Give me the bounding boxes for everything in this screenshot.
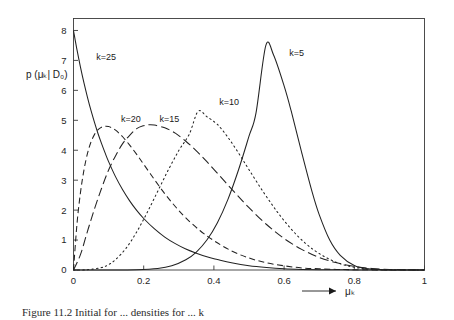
- y-axis-label: p (μₖ| D₀): [26, 69, 68, 80]
- curve-label-k-25: k=25: [96, 52, 116, 62]
- y-tick-label: 4: [61, 145, 66, 156]
- x-axis-arrow-head: [329, 288, 336, 295]
- x-tick-label: 0.2: [137, 275, 150, 286]
- y-tick-label: 6: [61, 85, 66, 96]
- x-tick-label: 1: [422, 275, 427, 286]
- curve-label-k-5: k=5: [289, 48, 304, 58]
- figure-container: p (μₖ| D₀) 00.20.40.60.81 012345678 k=25…: [0, 0, 454, 320]
- plot-frame: [74, 19, 425, 271]
- x-tick-label: 0.6: [277, 275, 290, 286]
- y-tick-labels: 012345678: [61, 25, 66, 276]
- y-tick-label: 5: [61, 115, 66, 126]
- curve-k-25: [74, 30, 425, 270]
- y-tick-label: 2: [61, 205, 66, 216]
- beta-density-plot: p (μₖ| D₀) 00.20.40.60.81 012345678 k=25…: [0, 0, 454, 302]
- axis-ticks: [74, 30, 425, 270]
- curve-label-k-20: k=20: [121, 114, 141, 124]
- figure-caption: Figure 11.2 Initial for ... densities fo…: [22, 306, 442, 318]
- x-axis-label-text: μₖ: [345, 286, 355, 297]
- y-tick-label: 1: [61, 234, 66, 245]
- y-tick-label: 0: [61, 264, 66, 275]
- curve-k-5: [74, 42, 425, 270]
- x-tick-label: 0: [71, 275, 76, 286]
- density-curves: [74, 30, 425, 270]
- curve-label-k-10: k=10: [219, 97, 239, 107]
- x-tick-labels: 00.20.40.60.81: [71, 275, 427, 286]
- y-tick-label: 8: [61, 25, 66, 36]
- x-axis-label: μₖ: [302, 286, 355, 297]
- y-tick-label: 3: [61, 175, 66, 186]
- curve-label-k-15: k=15: [159, 114, 179, 124]
- x-tick-label: 0.4: [207, 275, 220, 286]
- x-tick-label: 0.8: [348, 275, 361, 286]
- y-tick-label: 7: [61, 55, 66, 66]
- y-axis-label-text: p (μₖ| D₀): [26, 69, 68, 80]
- curve-labels: k=25k=20k=15k=10k=5: [96, 48, 304, 124]
